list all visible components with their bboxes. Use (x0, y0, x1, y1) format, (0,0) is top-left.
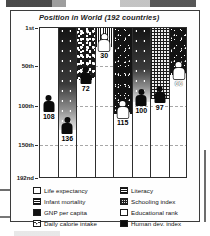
y-axis: 1st50th100th150th192nd (11, 11, 39, 211)
pictogram-body (62, 123, 73, 134)
pictogram-body (154, 92, 165, 103)
legend-column-right: LiteracySchooling indexEducational rankH… (120, 185, 210, 229)
legend-item[interactable]: Infant mortality (33, 196, 123, 207)
chart-column[interactable]: 108 (40, 28, 59, 178)
pictogram-body (117, 107, 128, 118)
column-value-label: 100 (135, 107, 148, 114)
y-axis-tick-mark (35, 28, 38, 29)
chart-column[interactable]: 66 (170, 28, 188, 178)
person-pictogram-marker (42, 95, 55, 112)
legend-item-label: GNP per capita (44, 209, 87, 216)
legend-item-label: Infant mortality (44, 198, 85, 205)
person-pictogram-marker (153, 86, 166, 103)
legend-item[interactable]: Schooling index (120, 196, 210, 207)
y-axis-tick-mark (35, 145, 38, 146)
legend-swatch-striped-icon (33, 198, 41, 205)
person-pictogram-marker (116, 101, 129, 118)
legend-item-label: Human dev. index (131, 220, 181, 227)
y-axis-tick-label: 150th (18, 142, 34, 148)
chart-title: Position in World (192 countries) (39, 13, 159, 22)
column-value-label: 66 (175, 80, 183, 87)
column-value-label: 136 (61, 135, 74, 142)
legend-swatch-outline-icon (120, 209, 128, 216)
plot-area: 10813672301151009766 (39, 28, 187, 178)
column-value-label: 115 (117, 119, 129, 126)
legend-item-label: Educational rank (131, 209, 178, 216)
chart-column[interactable]: 136 (59, 28, 78, 178)
chart-column[interactable]: 100 (133, 28, 152, 178)
y-axis-tick-label: 192nd (17, 175, 34, 181)
scan-artifact-top (0, 0, 210, 7)
legend-item-label: Literacy (131, 187, 153, 194)
pictogram-body (80, 73, 91, 84)
scan-artifact-bottom (0, 231, 210, 236)
chart-figure-frame: Position in World (192 countries) 1st50t… (10, 10, 200, 222)
legend-item[interactable]: Educational rank (120, 207, 210, 218)
legend-swatch-dotted-icon (33, 220, 41, 227)
legend-item[interactable]: Literacy (120, 185, 210, 196)
y-axis-tick-label: 50th (22, 63, 34, 69)
legend-swatch-dark-icon (33, 209, 41, 216)
legend-swatch-white-icon (33, 187, 41, 194)
column-value-label: 72 (81, 85, 90, 92)
y-axis-tick-label: 1st (25, 25, 34, 31)
legend-item[interactable]: Daily calorie intake (33, 218, 123, 229)
person-pictogram-marker (98, 34, 111, 51)
person-pictogram-marker (79, 67, 92, 84)
chart-legend: Life expectancyInfant mortalityGNP per c… (23, 185, 209, 231)
pictogram-body (136, 95, 147, 106)
person-pictogram-marker (61, 117, 74, 134)
legend-column-left: Life expectancyInfant mortalityGNP per c… (33, 185, 123, 229)
person-pictogram-marker (172, 62, 185, 79)
legend-item[interactable]: GNP per capita (33, 207, 123, 218)
y-axis-tick-mark (35, 178, 38, 179)
legend-item-label: Schooling index (131, 198, 175, 205)
legend-item-label: Life expectancy (44, 187, 88, 194)
y-axis-tick-label: 100th (18, 103, 34, 109)
legend-swatch-solid-icon (120, 220, 128, 227)
y-axis-tick-mark (35, 66, 38, 67)
pictogram-body (99, 40, 110, 51)
column-value-label: 97 (155, 104, 164, 111)
legend-swatch-striped-icon (120, 187, 128, 194)
pictogram-body (43, 101, 54, 112)
person-pictogram-marker (135, 89, 148, 106)
legend-item[interactable]: Life expectancy (33, 185, 123, 196)
legend-swatch-grid-icon (120, 198, 128, 205)
chart-column[interactable]: 97 (151, 28, 170, 178)
y-axis-tick-mark (35, 106, 38, 107)
legend-item-label: Daily calorie intake (44, 220, 97, 227)
chart-column[interactable]: 30 (96, 28, 115, 178)
chart-column[interactable]: 72 (77, 28, 96, 178)
pictogram-body (173, 68, 184, 79)
legend-item[interactable]: Human dev. index (120, 218, 210, 229)
chart-column[interactable]: 115 (114, 28, 133, 178)
column-fill (59, 28, 77, 130)
column-value-label: 30 (100, 52, 109, 59)
column-value-label: 108 (42, 113, 55, 120)
